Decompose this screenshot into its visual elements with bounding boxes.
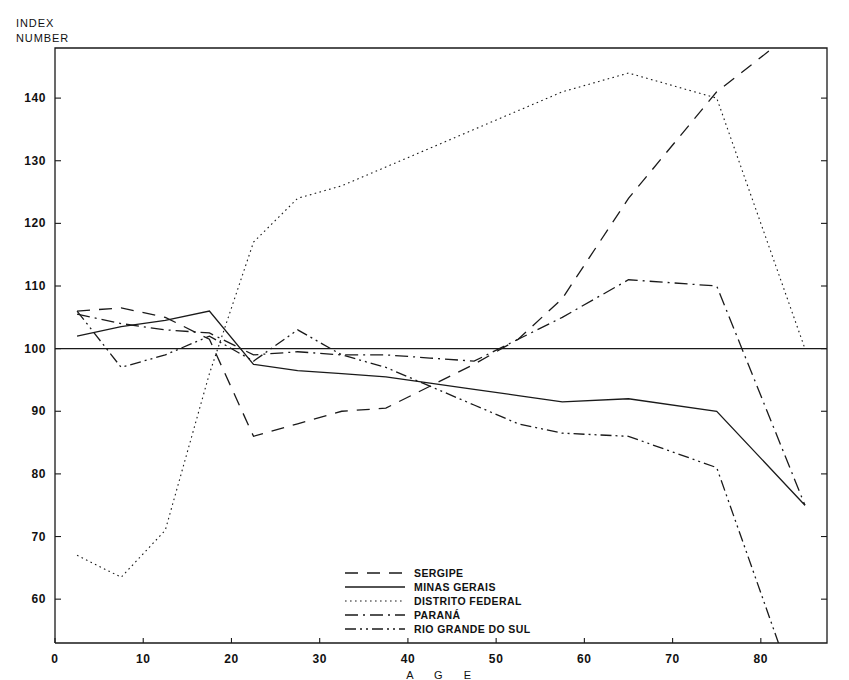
legend-label: MINAS GERAIS	[414, 581, 496, 593]
legend-line-swatch	[344, 581, 406, 593]
x-tick-label: 40	[401, 652, 416, 666]
y-tick-label: 60	[8, 592, 46, 606]
legend-item: PARANÁ	[344, 608, 594, 622]
series-layer	[77, 23, 805, 643]
plot-frame	[55, 48, 827, 643]
x-axis-title: A G E	[406, 669, 480, 680]
legend-line-swatch	[344, 595, 406, 607]
x-tick-label: 80	[754, 652, 769, 666]
y-tick-label: 80	[8, 467, 46, 481]
x-tick-label: 60	[577, 652, 592, 666]
legend-line-swatch	[344, 567, 406, 579]
series-line-paran	[77, 280, 805, 505]
series-line-minas-gerais	[77, 311, 805, 505]
legend-line-swatch	[344, 623, 406, 635]
x-tick-label: 50	[489, 652, 504, 666]
legend-item: SERGIPE	[344, 566, 594, 580]
series-line-sergipe	[77, 23, 805, 436]
legend-line-swatch	[344, 609, 406, 621]
y-axis-title: INDEX NUMBER	[16, 16, 69, 46]
y-tick-label: 110	[8, 279, 46, 293]
series-line-distrito-federal	[77, 73, 805, 577]
legend-label: PARANÁ	[414, 609, 461, 621]
legend-item: DISTRITO FEDERAL	[344, 594, 594, 608]
x-tick-label: 0	[51, 652, 58, 666]
x-tick-label: 30	[312, 652, 327, 666]
y-tick-label: 70	[8, 530, 46, 544]
y-tick-label: 130	[8, 154, 46, 168]
legend-label: RIO GRANDE DO SUL	[414, 623, 530, 635]
legend-item: MINAS GERAIS	[344, 580, 594, 594]
legend-item: RIO GRANDE DO SUL	[344, 622, 594, 636]
chart-legend: SERGIPEMINAS GERAISDISTRITO FEDERALPARAN…	[344, 566, 594, 636]
legend-label: SERGIPE	[414, 567, 463, 579]
y-tick-label: 140	[8, 91, 46, 105]
x-tick-label: 10	[136, 652, 151, 666]
chart-figure: INDEX NUMBER 607080901001101201301400102…	[0, 0, 849, 680]
x-tick-label: 70	[665, 652, 680, 666]
x-tick-label: 20	[224, 652, 239, 666]
y-tick-label: 100	[8, 342, 46, 356]
y-tick-label: 90	[8, 404, 46, 418]
y-tick-label: 120	[8, 216, 46, 230]
legend-label: DISTRITO FEDERAL	[414, 595, 522, 607]
